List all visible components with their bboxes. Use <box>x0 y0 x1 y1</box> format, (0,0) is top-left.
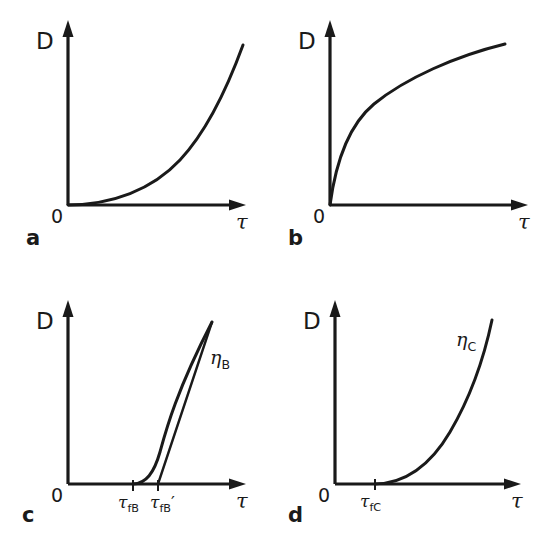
y-axis-arrowhead-icon <box>330 300 341 317</box>
x-axis-label: τ <box>236 491 248 512</box>
y-axis-arrowhead-icon <box>63 20 74 37</box>
tau-fb-label: τfB <box>118 494 139 515</box>
panel-b: D τ 0 b <box>270 0 540 280</box>
x-axis-label: τ <box>518 212 530 233</box>
x-axis-arrowhead-icon <box>504 479 521 490</box>
panel-letter-b: b <box>288 228 303 249</box>
tau-fb-prime-subscript: fB <box>159 502 171 515</box>
y-axis-label: D <box>303 310 321 333</box>
eta-c-label: ηC <box>456 330 476 353</box>
x-axis-arrowhead-icon <box>229 200 246 211</box>
flow-curve-b <box>330 44 505 205</box>
eta-c-subscript: C <box>467 339 476 354</box>
panel-a: D τ 0 a <box>0 0 270 280</box>
tau-fb-prime-mark: ′ <box>171 492 175 512</box>
eta-b-label: ηB <box>210 348 230 371</box>
flow-curve-a <box>68 45 243 205</box>
panel-c: D τ 0 c ηB τfB τfB′ <box>0 280 270 557</box>
tau-fb-base: τ <box>118 492 127 512</box>
origin-label: 0 <box>313 207 325 226</box>
y-axis-label: D <box>298 30 316 53</box>
flow-curve-c <box>133 322 212 484</box>
x-axis-label: τ <box>511 491 523 512</box>
panel-letter-a: a <box>26 228 40 249</box>
figure-four-flow-curves: D τ 0 a D τ 0 b <box>0 0 540 557</box>
eta-c-base: η <box>456 328 467 350</box>
y-axis-label: D <box>36 30 54 53</box>
tangent-line-c <box>158 322 212 484</box>
panel-letter-c: c <box>22 505 34 526</box>
y-axis-arrowhead-icon <box>325 20 336 37</box>
panel-d: D τ 0 d ηC τfC <box>270 280 540 557</box>
tau-fc-base: τ <box>360 491 369 511</box>
origin-label: 0 <box>51 486 63 505</box>
y-axis-label: D <box>36 310 54 333</box>
panel-letter-d: d <box>288 505 303 526</box>
y-axis-arrowhead-icon <box>63 300 74 317</box>
eta-b-subscript: B <box>221 357 230 372</box>
origin-label: 0 <box>318 486 330 505</box>
tau-fc-subscript: fC <box>369 501 381 514</box>
tau-fc-label: τfC <box>360 493 381 514</box>
x-axis-arrowhead-icon <box>229 479 246 490</box>
x-axis-arrowhead-icon <box>511 200 528 211</box>
tau-fb-subscript: fB <box>127 502 139 515</box>
tau-fb-prime-label: τfB′ <box>150 494 175 515</box>
eta-b-base: η <box>210 346 221 368</box>
origin-label: 0 <box>51 207 63 226</box>
x-axis-label: τ <box>236 212 248 233</box>
tau-fb-prime-base: τ <box>150 492 159 512</box>
